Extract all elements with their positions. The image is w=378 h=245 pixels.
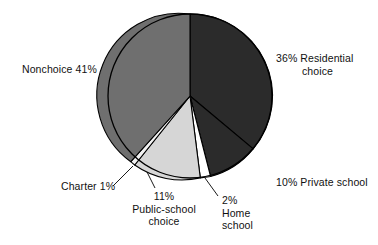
slice-label-public-school-choice: 11% Public-school choice [118, 190, 210, 228]
slice-label-charter-pct: 1% [100, 180, 115, 192]
slice-label-nonchoice: Nonchoice 41% [22, 63, 97, 76]
slice-label-public-school-choice-pct: 11% [154, 190, 175, 202]
pie-chart-figure: 36% Residential choice Nonchoice 41% 10%… [0, 0, 378, 245]
slice-label-nonchoice-name: Nonchoice [22, 63, 73, 75]
slice-label-home-school-pct: 2% [222, 194, 253, 207]
slice-label-private-school: 10% Private school [276, 176, 368, 189]
slice-label-charter-name: Charter [61, 180, 97, 192]
slice-label-charter: Charter 1% [61, 180, 115, 193]
slice-label-residential-choice-name-line1: Residential [300, 52, 353, 64]
slice-label-nonchoice-pct: 41% [76, 63, 97, 75]
slice-label-private-school-name: Private school [300, 176, 367, 188]
slice-label-private-school-pct: 10% [276, 176, 297, 188]
slice-label-residential-choice-name-line2: choice [302, 65, 353, 78]
slice-label-public-school-choice-name-line1: Public-school [132, 203, 196, 215]
slice-label-residential-choice: 36% Residential choice [276, 52, 353, 77]
leader-line-charter [113, 166, 133, 186]
slice-label-home-school-name-line1: Home [222, 207, 253, 220]
slice-label-home-school: 2% Home school [222, 194, 253, 232]
slice-label-public-school-choice-name-line2: choice [149, 215, 180, 227]
slice-label-home-school-name-line2: school [222, 219, 253, 232]
slice-label-residential-choice-pct: 36% [276, 52, 297, 64]
